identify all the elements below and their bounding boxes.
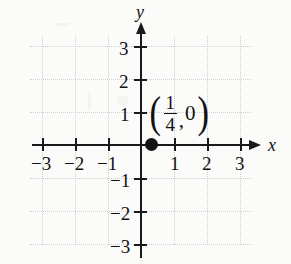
y-axis-tick [134,79,147,81]
y-axis-tick [134,211,147,213]
x-axis-tick [42,138,44,151]
x-axis-label: x [268,136,276,154]
close-paren: ) [198,96,209,130]
x-axis-tick [75,138,77,151]
y-tick-label: 1 [120,105,130,124]
fraction-denominator: 4 [164,115,176,134]
gridlines [0,0,291,264]
y-tick-label: −1 [110,171,130,190]
x-axis-tick [108,138,110,151]
x-tick-label: 2 [202,154,212,173]
x-axis-arrow-icon [249,140,261,150]
y-tick-label: −2 [110,204,130,223]
y-tick-label: 3 [119,39,129,58]
y-axis-tick [134,112,147,114]
x-tick-label: −3 [31,154,51,173]
y-axis-tick [134,46,147,48]
y-axis [140,33,142,258]
open-paren: ( [150,96,161,130]
y-tick-label: −3 [110,237,130,256]
y-tick-label: 2 [119,72,129,91]
y-axis-tick [134,244,147,246]
fraction-one-quarter: 1 4 [164,93,177,134]
x-axis-tick [207,138,209,151]
second-coordinate: 0 [185,103,196,124]
x-tick-label: −2 [64,154,84,173]
coordinate-comma: , [179,110,184,134]
x-axis-tick [240,138,242,151]
y-axis-tick [134,178,147,180]
x-tick-label: 1 [170,154,180,173]
coordinate-plane-figure: x y −3 −2 −1 1 2 3 3 2 1 −1 −2 −3 ( 1 4 … [0,0,291,264]
point-coordinate-label: ( 1 4 , 0 ) [148,93,211,134]
y-axis-arrow-icon [136,22,146,34]
y-axis-label: y [136,3,144,21]
plotted-point [145,138,158,151]
x-axis-tick [174,138,176,151]
fraction-numerator: 1 [164,93,176,112]
x-tick-label: 3 [235,154,245,173]
